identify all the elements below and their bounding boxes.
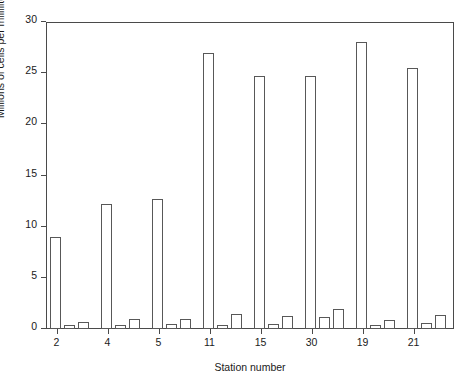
- y-tick-mark: [41, 123, 46, 124]
- x-tick-mark: [261, 329, 262, 334]
- bar: [407, 68, 418, 329]
- y-tick-label: 20: [25, 116, 37, 127]
- y-tick-mark: [41, 277, 46, 278]
- y-tick-label: 25: [25, 65, 37, 76]
- bar: [64, 325, 75, 329]
- x-tick-mark: [414, 329, 415, 334]
- bar-chart-figure: 051015202530 Millions of cells per milli…: [0, 0, 472, 382]
- bar: [435, 315, 446, 329]
- x-axis-title: Station number: [46, 361, 454, 373]
- bar: [319, 317, 330, 329]
- y-tick-label: 0: [31, 321, 37, 332]
- x-tick-label: 30: [298, 336, 326, 348]
- x-tick-mark: [159, 329, 160, 334]
- x-tick-mark: [57, 329, 58, 334]
- bar: [115, 325, 126, 329]
- x-tick-mark: [210, 329, 211, 334]
- bar: [356, 42, 367, 329]
- y-tick-label: 10: [25, 219, 37, 230]
- y-tick-mark: [41, 226, 46, 227]
- bar: [268, 324, 279, 329]
- x-tick-mark: [108, 329, 109, 334]
- x-tick-mark: [312, 329, 313, 334]
- y-tick-label: 15: [25, 168, 37, 179]
- bar: [217, 325, 228, 329]
- x-tick-label: 5: [145, 336, 173, 348]
- y-tick-mark: [41, 328, 46, 329]
- bar: [166, 324, 177, 329]
- x-tick-label: 2: [43, 336, 71, 348]
- x-tick-mark: [363, 329, 364, 334]
- bar: [203, 53, 214, 329]
- y-axis-title: Millions of cells per milliliter: [0, 0, 6, 118]
- bar: [152, 199, 163, 329]
- x-tick-label: 19: [349, 336, 377, 348]
- x-tick-label: 11: [196, 336, 224, 348]
- bar: [333, 309, 344, 329]
- y-tick-mark: [41, 21, 46, 22]
- bar: [282, 316, 293, 329]
- bar: [370, 325, 381, 329]
- bar: [180, 319, 191, 329]
- x-tick-label: 21: [400, 336, 428, 348]
- bar: [101, 204, 112, 329]
- y-tick-label: 5: [31, 270, 37, 281]
- bar: [50, 237, 61, 329]
- x-tick-label: 15: [247, 336, 275, 348]
- plot-area: [46, 22, 454, 329]
- bar: [384, 320, 395, 329]
- bar: [78, 322, 89, 329]
- bar: [421, 323, 432, 329]
- bar: [129, 319, 140, 329]
- y-tick-label: 30: [25, 14, 37, 25]
- bar: [254, 76, 265, 329]
- bar: [305, 76, 316, 329]
- bar: [231, 314, 242, 329]
- x-tick-label: 4: [94, 336, 122, 348]
- y-tick-mark: [41, 72, 46, 73]
- y-tick-mark: [41, 175, 46, 176]
